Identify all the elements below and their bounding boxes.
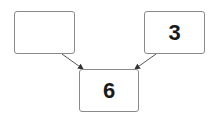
input-box-left[interactable] [14, 11, 75, 54]
arrow-left-to-result [62, 54, 83, 69]
arrow-right-to-result [135, 54, 156, 69]
input-box-right-value: 3 [168, 20, 180, 46]
result-box-value: 6 [103, 78, 115, 104]
result-box: 6 [79, 69, 139, 112]
input-box-right: 3 [144, 11, 205, 54]
